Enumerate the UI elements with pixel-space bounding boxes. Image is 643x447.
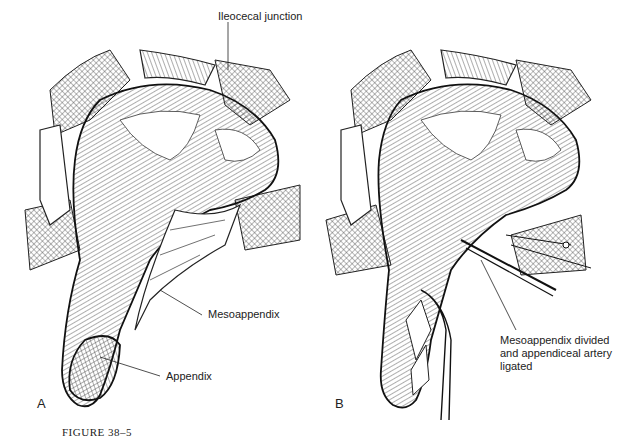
panel-letter-b: B <box>335 396 344 411</box>
figure-panel-a: Ileocecal junction Mesoappendix Appendix… <box>0 0 321 420</box>
label-mesoappendix-divided: Mesoappendix divided and appendiceal art… <box>500 334 612 373</box>
label-ileocecal-junction: Ileocecal junction <box>218 10 302 23</box>
label-appendix: Appendix <box>166 370 212 383</box>
panel-letter-a: A <box>37 396 46 411</box>
appendix-illustration-a <box>0 0 321 420</box>
figure-panel-b: Mesoappendix divided and appendiceal art… <box>321 0 642 420</box>
figure-caption: FIGURE 38–5 <box>62 426 132 438</box>
label-mesoappendix: Mesoappendix <box>208 308 280 321</box>
